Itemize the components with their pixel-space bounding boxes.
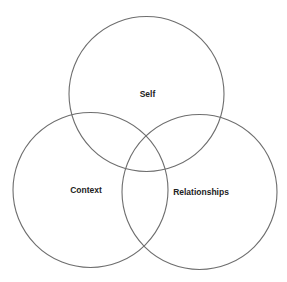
label-self: Self: [140, 89, 156, 99]
label-context: Context: [70, 185, 102, 195]
venn-diagram: Self Context Relationships: [0, 0, 287, 282]
label-relationships: Relationships: [173, 187, 229, 197]
